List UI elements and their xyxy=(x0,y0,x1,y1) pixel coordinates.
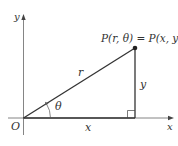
right-angle-marker xyxy=(128,111,136,119)
y-axis-label: y xyxy=(14,12,20,22)
y-axis-arrow-icon xyxy=(21,14,25,20)
point-p xyxy=(133,46,138,51)
point-label: P(r, θ) = P(x, y) xyxy=(101,33,178,44)
angle-label: θ xyxy=(55,101,62,112)
x-axis-label: x xyxy=(167,122,173,132)
radius-label: r xyxy=(78,67,83,78)
radius-segment-r xyxy=(24,48,136,118)
opposite-label: y xyxy=(140,79,146,90)
origin-label: O xyxy=(11,121,20,132)
x-axis-arrow-icon xyxy=(168,116,174,120)
adjacent-label: x xyxy=(85,122,91,133)
angle-arc xyxy=(46,104,50,118)
